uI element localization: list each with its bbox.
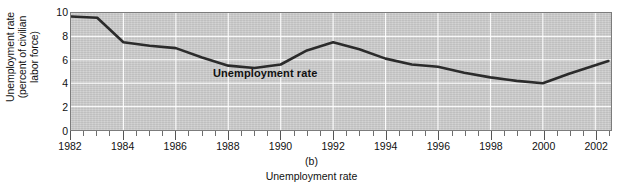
x-tick-label: 1988 <box>205 140 251 152</box>
x-axis-minor-tick <box>149 131 150 136</box>
x-axis-minor-tick <box>504 131 505 136</box>
x-axis-major-tick <box>386 131 387 140</box>
x-axis-major-tick <box>544 131 545 140</box>
x-axis-minor-tick <box>202 131 203 136</box>
x-axis-major-tick <box>280 131 281 140</box>
y-tick-label: 2 <box>50 102 68 112</box>
x-axis-minor-tick <box>162 131 163 136</box>
x-axis-minor-tick <box>452 131 453 136</box>
x-axis-minor-tick <box>83 131 84 136</box>
x-axis-major-tick <box>175 131 176 140</box>
x-axis-minor-tick <box>609 131 610 136</box>
x-axis-minor-tick <box>215 131 216 136</box>
x-axis-minor-tick <box>570 131 571 136</box>
series-inline-label: Unemployment rate <box>213 67 317 79</box>
x-axis-minor-tick <box>478 131 479 136</box>
y-tick-label: 4 <box>50 78 68 88</box>
x-axis-tick-strip <box>70 131 612 140</box>
x-tick-label: 1984 <box>100 140 146 152</box>
x-axis-minor-tick <box>188 131 189 136</box>
x-axis-minor-tick <box>346 131 347 136</box>
x-axis-major-tick <box>333 131 334 140</box>
x-axis-minor-tick <box>307 131 308 136</box>
panel-letter: (b) <box>0 155 623 167</box>
x-axis-minor-tick <box>109 131 110 136</box>
x-tick-label: 1996 <box>415 140 461 152</box>
x-tick-label: 2000 <box>521 140 567 152</box>
x-axis-minor-tick <box>530 131 531 136</box>
x-axis-minor-tick <box>294 131 295 136</box>
x-axis-minor-tick <box>557 131 558 136</box>
x-axis-major-tick <box>438 131 439 140</box>
plot-svg <box>71 13 611 130</box>
x-axis-major-tick <box>228 131 229 140</box>
x-axis-minor-tick <box>399 131 400 136</box>
y-axis-title: Unemployment rate (percent of civilian l… <box>0 0 46 122</box>
x-tick-label: 1990 <box>257 140 303 152</box>
x-axis-minor-tick <box>254 131 255 136</box>
y-axis-title-line-3: labor force) <box>29 31 41 83</box>
x-tick-label: 1982 <box>47 140 93 152</box>
x-axis-major-tick <box>123 131 124 140</box>
x-axis-minor-tick <box>359 131 360 136</box>
vertical-gridlines <box>123 13 595 130</box>
x-axis-minor-tick <box>465 131 466 136</box>
x-axis-minor-tick <box>320 131 321 136</box>
unemployment-rate-line <box>71 17 608 84</box>
x-axis-minor-tick <box>136 131 137 136</box>
x-tick-label: 1994 <box>363 140 409 152</box>
y-tick-label: 0 <box>50 126 68 136</box>
plot-area <box>70 12 612 131</box>
x-axis-minor-tick <box>425 131 426 136</box>
x-axis-major-tick <box>70 131 71 140</box>
y-tick-label: 10 <box>50 7 68 17</box>
x-axis-major-tick <box>596 131 597 140</box>
y-tick-label: 6 <box>50 55 68 65</box>
x-tick-label: 2002 <box>573 140 619 152</box>
x-axis-minor-tick <box>96 131 97 136</box>
x-tick-label: 1998 <box>468 140 514 152</box>
x-axis-minor-tick <box>412 131 413 136</box>
figure-caption: Unemployment rate <box>0 170 623 182</box>
x-tick-label: 1992 <box>310 140 356 152</box>
x-axis-tick-labels: 1982198419861988199019921994199619982000… <box>0 140 623 154</box>
x-axis-minor-tick <box>241 131 242 136</box>
unemployment-rate-figure: Unemployment rate (percent of civilian l… <box>0 0 623 185</box>
x-axis-minor-tick <box>267 131 268 136</box>
x-axis-minor-tick <box>583 131 584 136</box>
x-tick-label: 1986 <box>152 140 198 152</box>
x-axis-major-tick <box>491 131 492 140</box>
x-axis-minor-tick <box>373 131 374 136</box>
y-tick-label: 8 <box>50 31 68 41</box>
x-axis-minor-tick <box>517 131 518 136</box>
